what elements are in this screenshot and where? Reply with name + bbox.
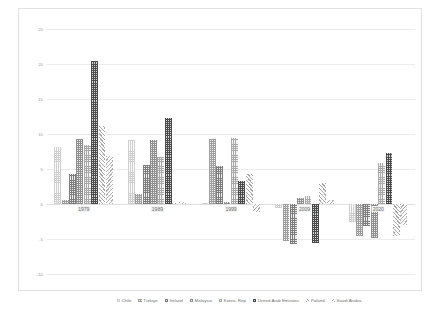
y-axis-tick-label: 10: [38, 132, 43, 137]
y-axis-tick-label: 5: [41, 167, 43, 172]
bar: [231, 138, 238, 205]
bar: [172, 203, 179, 204]
bar: [319, 183, 326, 204]
gridline--10: -10: [47, 274, 415, 275]
bar-group-2020: 2020: [341, 29, 415, 274]
bar: [99, 126, 106, 204]
legend-swatch-icon: [138, 299, 141, 302]
x-axis-tick-label: 2009: [298, 206, 311, 212]
chart-frame: 2520151050-5-1019791989199920092020 Chil…: [18, 8, 422, 291]
legend-swatch-icon: [190, 299, 193, 302]
legend-label: Korea, Rep: [224, 298, 246, 303]
bar: [157, 157, 164, 204]
bar: [69, 174, 76, 204]
bar: [400, 204, 407, 225]
legend-label: Saudi Arabia: [336, 298, 361, 303]
bar: [327, 200, 334, 204]
y-axis-tick-label: 20: [38, 62, 43, 67]
bar: [253, 204, 260, 212]
y-axis-tick-label: -10: [37, 272, 43, 277]
legend-item-turkiye[interactable]: Türkiye: [138, 298, 157, 303]
y-axis-tick-label: -5: [39, 237, 43, 242]
bar-group-1999: 1999: [194, 29, 268, 274]
x-axis-tick-label: 1989: [151, 206, 164, 212]
bar: [62, 200, 69, 204]
legend-label: Malaysia: [195, 298, 212, 303]
bar: [393, 204, 400, 236]
bar-group-1979: 1979: [47, 29, 121, 274]
x-axis-tick-label: 1999: [224, 206, 237, 212]
bar: [84, 145, 91, 204]
y-axis-tick-label: 25: [38, 27, 43, 32]
bar: [128, 140, 135, 204]
bar: [305, 196, 312, 204]
bar: [297, 198, 304, 204]
bar: [135, 194, 142, 204]
bar: [283, 204, 290, 241]
bar: [150, 140, 157, 204]
legend-swatch-icon: [332, 299, 335, 302]
bar: [378, 163, 385, 204]
legend-swatch-icon: [117, 299, 120, 302]
y-axis-tick-label: 15: [38, 97, 43, 102]
legend-swatch-icon: [306, 299, 309, 302]
bar: [386, 153, 393, 204]
y-axis-tick-label: 0: [41, 202, 43, 207]
legend-item-saudi[interactable]: Saudi Arabia: [332, 298, 362, 303]
legend-swatch-icon: [219, 299, 222, 302]
x-axis-tick-label: 1979: [77, 206, 90, 212]
bar: [363, 204, 370, 226]
bar: [106, 156, 113, 204]
bar: [349, 204, 356, 222]
bar: [224, 202, 231, 204]
legend-swatch-icon: [253, 299, 256, 302]
legend-item-ireland[interactable]: Ireland: [165, 298, 183, 303]
bar: [202, 203, 209, 204]
bar: [216, 166, 223, 205]
x-axis-tick-label: 2020: [372, 206, 385, 212]
bar: [238, 181, 245, 204]
legend-label: United Arab Emirates: [258, 298, 300, 303]
legend-item-chile[interactable]: Chile: [117, 298, 132, 303]
bar: [179, 202, 186, 204]
legend-label: Poland: [311, 298, 325, 303]
legend-item-uae[interactable]: United Arab Emirates: [253, 298, 299, 303]
legend-item-korea[interactable]: Korea, Rep: [219, 298, 246, 303]
legend-item-malaysia[interactable]: Malaysia: [190, 298, 212, 303]
bar-group-1989: 1989: [121, 29, 195, 274]
legend-item-poland[interactable]: Poland: [306, 298, 324, 303]
bar: [246, 174, 253, 204]
bar: [356, 204, 363, 236]
bar: [165, 118, 172, 204]
bar: [312, 204, 319, 243]
bar: [143, 165, 150, 204]
legend-label: Ireland: [169, 298, 182, 303]
chart-legend: ChileTürkiyeIrelandMalaysiaKorea, RepUni…: [37, 298, 440, 303]
bar: [209, 139, 216, 204]
bar: [91, 61, 98, 205]
bar-group-2009: 2009: [268, 29, 342, 274]
bar: [275, 204, 282, 208]
bar: [76, 139, 83, 204]
bar: [290, 204, 297, 244]
legend-label: Türkiye: [143, 298, 157, 303]
legend-label: Chile: [121, 298, 131, 303]
plot-area: 2520151050-5-1019791989199920092020: [47, 29, 415, 274]
bar: [54, 147, 61, 204]
legend-swatch-icon: [165, 299, 168, 302]
